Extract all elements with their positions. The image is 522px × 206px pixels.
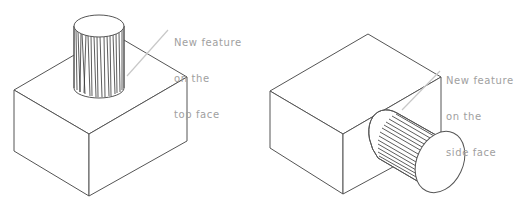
callout-line: on the (446, 111, 514, 123)
callout-line: top face (174, 109, 242, 121)
cylinder-top-feature (74, 15, 124, 98)
cylinder-top-cap (74, 15, 124, 37)
callout-line: on the (174, 73, 242, 85)
isometric-drawing (0, 0, 522, 206)
callout-line: side face (446, 147, 514, 159)
callout-side-face: New feature on the side face (446, 51, 514, 171)
block-with-top-feature (14, 15, 187, 196)
callout-top-face: New feature on the top face (174, 13, 242, 133)
callout-line: New feature (174, 37, 242, 49)
callout-line: New feature (446, 75, 514, 87)
block-with-side-feature (270, 34, 474, 201)
